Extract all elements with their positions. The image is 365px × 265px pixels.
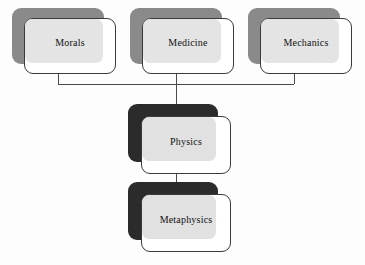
node-medicine[interactable]: Medicine [130,8,238,83]
node-morals-card[interactable] [24,18,116,74]
node-medicine-card[interactable] [142,18,234,74]
node-mechanics-card[interactable] [260,18,352,74]
node-physics[interactable]: Physics [128,104,236,182]
knowledge-tree-diagram: Morals Medicine Mechanics Physics Metaph… [0,0,365,265]
node-morals[interactable]: Morals [12,8,120,83]
node-physics-card[interactable] [141,116,231,174]
node-metaphysics[interactable]: Metaphysics [128,182,236,260]
node-metaphysics-card[interactable] [141,194,231,252]
node-mechanics[interactable]: Mechanics [248,8,356,83]
